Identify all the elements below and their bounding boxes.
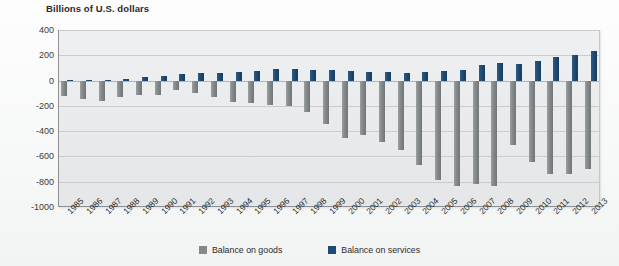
plot-wrapper: [58, 30, 600, 207]
bar-goods-2004: [416, 81, 422, 165]
bar-group: [267, 30, 279, 207]
bar-group: [473, 30, 485, 207]
bar-goods-1994: [230, 81, 236, 102]
bar-group: [529, 30, 541, 207]
bar-services-1997: [292, 69, 298, 81]
bar-goods-2011: [547, 81, 553, 175]
legend-item-services[interactable]: Balance on services: [328, 245, 420, 255]
y-axis-line: [58, 30, 59, 207]
bar-goods-1998: [304, 81, 310, 112]
bar-group: [379, 30, 391, 207]
chart-figure: Billions of U.S. dollars 4002000-200-400…: [0, 0, 619, 266]
bar-services-2011: [553, 57, 559, 81]
bar-goods-2000: [342, 81, 348, 138]
chart-legend: Balance on goodsBalance on services: [0, 245, 619, 255]
bar-goods-2001: [360, 81, 366, 135]
bar-services-1993: [217, 73, 223, 81]
bar-services-1994: [236, 72, 242, 81]
y-tick-label--1000: -1000: [2, 202, 54, 212]
bar-services-2009: [516, 64, 522, 81]
bar-group: [398, 30, 410, 207]
bar-services-1998: [310, 70, 316, 80]
plot-area: [58, 30, 600, 207]
bar-services-2012: [572, 55, 578, 81]
bar-goods-1986: [80, 81, 86, 99]
bar-services-2005: [441, 71, 447, 81]
y-tick-label--800: -800: [2, 177, 54, 187]
bar-group: [416, 30, 428, 207]
bar-services-2007: [479, 65, 485, 81]
bar-services-1986: [86, 80, 92, 81]
chart-title: Billions of U.S. dollars: [46, 3, 149, 14]
bar-goods-2005: [435, 81, 441, 180]
bar-goods-2006: [454, 81, 460, 187]
bar-goods-2013: [585, 81, 591, 170]
bar-services-1995: [254, 71, 260, 81]
legend-label: Balance on services: [341, 245, 420, 255]
bar-group: [304, 30, 316, 207]
bar-services-1992: [198, 73, 204, 81]
bar-goods-1996: [267, 81, 273, 105]
bar-goods-2002: [379, 81, 385, 142]
bar-services-2001: [366, 72, 372, 80]
bar-group: [61, 30, 73, 207]
bar-group: [585, 30, 597, 207]
bar-goods-1988: [117, 81, 123, 97]
bar-group: [547, 30, 559, 207]
bar-goods-1995: [248, 81, 254, 103]
bar-goods-1991: [173, 81, 179, 91]
bar-services-2000: [348, 71, 354, 81]
bar-goods-2009: [510, 81, 516, 145]
legend-label: Balance on goods: [212, 245, 282, 255]
bar-goods-2008: [491, 81, 497, 186]
bar-goods-1987: [99, 81, 105, 101]
y-axis-tick-labels: 4002000-200-400-600-800-1000: [0, 30, 54, 207]
bar-goods-1989: [136, 81, 142, 96]
bar-services-1987: [105, 80, 111, 81]
bar-group: [80, 30, 92, 207]
bar-group: [117, 30, 129, 207]
bar-services-1985: [67, 80, 73, 81]
bar-goods-1992: [192, 81, 198, 93]
y-tick-label--400: -400: [2, 126, 54, 136]
bar-group: [510, 30, 522, 207]
bar-group: [286, 30, 298, 207]
y-tick-label-400: 400: [2, 25, 54, 35]
bar-goods-1985: [61, 81, 67, 96]
bar-services-2004: [422, 72, 428, 80]
bar-goods-2003: [398, 81, 404, 150]
services-swatch-icon: [328, 246, 336, 254]
bar-group: [99, 30, 111, 207]
y-tick-label-0: 0: [2, 76, 54, 86]
bar-services-2006: [460, 70, 466, 81]
bar-group: [230, 30, 242, 207]
bar-group: [435, 30, 447, 207]
bar-services-2013: [591, 51, 597, 80]
x-axis-tick-labels: 1985198619871988198919901991199219931994…: [58, 207, 600, 245]
bar-group: [192, 30, 204, 207]
bar-services-2010: [535, 61, 541, 80]
bar-services-2008: [497, 63, 503, 80]
bar-goods-1990: [155, 81, 161, 95]
legend-item-goods[interactable]: Balance on goods: [199, 245, 282, 255]
bar-services-1991: [179, 74, 185, 80]
bar-group: [491, 30, 503, 207]
bar-group: [136, 30, 148, 207]
bar-group: [566, 30, 578, 207]
bar-group: [248, 30, 260, 207]
bar-goods-2007: [473, 81, 479, 185]
bar-services-1999: [329, 70, 335, 81]
bar-goods-1999: [323, 81, 329, 125]
bar-goods-2010: [529, 81, 535, 163]
bar-services-1989: [142, 77, 148, 81]
bar-group: [454, 30, 466, 207]
goods-swatch-icon: [199, 246, 207, 254]
y-tick-label--600: -600: [2, 151, 54, 161]
bar-goods-1993: [211, 81, 217, 98]
bar-services-2003: [404, 73, 410, 81]
bar-services-1990: [161, 76, 167, 81]
bar-group: [342, 30, 354, 207]
bar-group: [323, 30, 335, 207]
bar-services-1996: [273, 69, 279, 80]
bar-goods-2012: [566, 81, 572, 175]
